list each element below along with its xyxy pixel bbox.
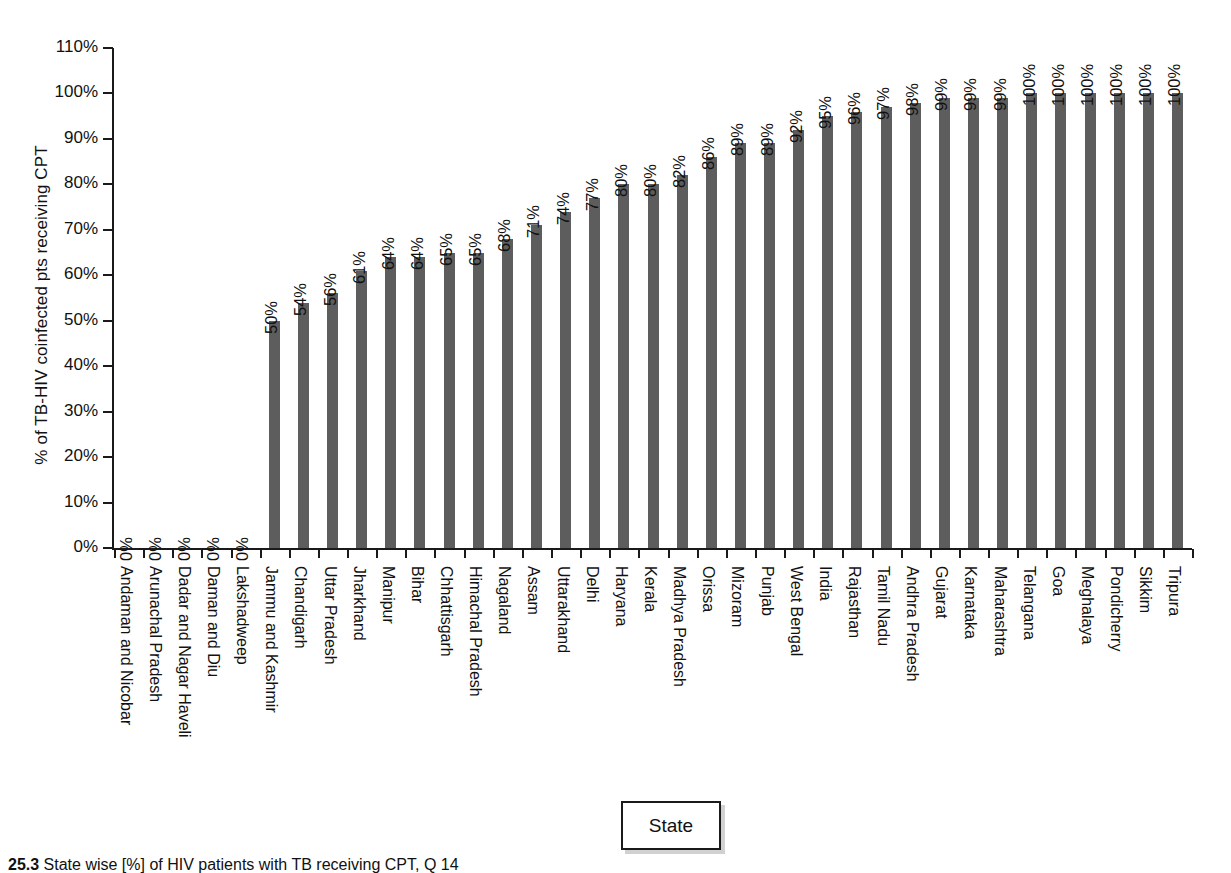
bar-value-label: 65% <box>437 233 456 266</box>
bar[interactable] <box>822 116 833 548</box>
x-tick-mark <box>347 549 349 558</box>
bar[interactable] <box>414 257 425 548</box>
caption-text: State wise [%] of HIV patients with TB r… <box>44 856 459 873</box>
bar[interactable] <box>851 112 862 548</box>
x-tick-mark <box>376 549 378 558</box>
x-tick-mark <box>289 549 291 558</box>
x-tick-mark <box>1046 549 1048 558</box>
bar[interactable] <box>706 157 717 548</box>
bar-value-label: 0% <box>175 537 194 561</box>
x-tick-mark <box>872 549 874 558</box>
x-category-label: Jammu and Kashmir <box>262 566 280 713</box>
bar-value-label: 64% <box>408 237 427 270</box>
bar-value-label: 98% <box>903 83 922 116</box>
x-category-label: Orissa <box>699 566 717 612</box>
x-tick-mark <box>1163 549 1165 558</box>
bar[interactable] <box>1114 93 1125 548</box>
x-category-label: Chhattisgarh <box>437 566 455 657</box>
bar-value-label: 95% <box>816 96 835 129</box>
bar[interactable] <box>1055 93 1066 548</box>
bar[interactable] <box>1172 93 1183 548</box>
bar[interactable] <box>939 98 950 548</box>
bar[interactable] <box>618 184 629 548</box>
bar[interactable] <box>269 321 280 548</box>
bar[interactable] <box>764 143 775 548</box>
bar[interactable] <box>531 225 542 548</box>
bar[interactable] <box>298 303 309 548</box>
x-category-label: Pondicherry <box>1107 566 1125 651</box>
bar-value-label: 97% <box>874 87 893 120</box>
x-tick-mark <box>842 549 844 558</box>
x-category-label: Tripura <box>1165 566 1183 616</box>
x-category-label: Daman and Diu <box>204 566 222 677</box>
x-category-label: Arunachal Pradesh <box>146 566 164 702</box>
bar[interactable] <box>968 98 979 548</box>
bar[interactable] <box>327 293 338 548</box>
bar[interactable] <box>1143 93 1154 548</box>
x-tick-mark <box>522 549 524 558</box>
bar-value-label: 80% <box>641 164 660 197</box>
figure-caption: 25.3 State wise [%] of HIV patients with… <box>8 856 459 873</box>
bar[interactable] <box>881 107 892 548</box>
x-tick-mark <box>1105 549 1107 558</box>
x-category-label: Andhra Pradesh <box>903 566 921 682</box>
legend-state-box[interactable]: State <box>621 801 721 850</box>
bar[interactable] <box>444 253 455 548</box>
bar-value-label: 61% <box>350 251 369 284</box>
caption-number: 25.3 <box>8 856 39 873</box>
bar-value-label: 99% <box>932 78 951 111</box>
x-category-label: Goa <box>1049 566 1067 596</box>
bar-value-label: 100% <box>1165 64 1184 106</box>
bars-layer: 0%0%0%0%0%50%54%56%61%64%64%65%65%68%71%… <box>0 0 1231 549</box>
bar[interactable] <box>589 198 600 548</box>
bar-value-label: 100% <box>1049 64 1068 106</box>
bar[interactable] <box>793 130 804 548</box>
x-category-label: Maharashtra <box>991 566 1009 656</box>
bar[interactable] <box>1085 93 1096 548</box>
bar[interactable] <box>677 175 688 548</box>
bar[interactable] <box>502 239 513 548</box>
x-category-label: Jharkhand <box>350 566 368 641</box>
bar-value-label: 74% <box>554 192 573 225</box>
x-category-label: Chandigarh <box>291 566 309 649</box>
bar-value-label: 100% <box>1020 64 1039 106</box>
bar[interactable] <box>385 257 396 548</box>
x-tick-mark <box>260 549 262 558</box>
bar-value-label: 80% <box>612 164 631 197</box>
x-tick-mark <box>143 549 145 558</box>
bar[interactable] <box>735 143 746 548</box>
bar-value-label: 92% <box>787 110 806 143</box>
bar-value-label: 89% <box>758 123 777 156</box>
x-tick-mark <box>930 549 932 558</box>
x-category-label: Telangana <box>1020 566 1038 640</box>
x-category-label: Manipur <box>379 566 397 624</box>
bar[interactable] <box>356 271 367 548</box>
x-tick-mark <box>1192 549 1194 558</box>
bar[interactable] <box>910 103 921 548</box>
bar-value-label: 100% <box>1107 64 1126 106</box>
x-category-label: Uttarakhand <box>554 566 572 653</box>
chart-figure: % of TB-HIV coinfected pts receiving CPT… <box>0 0 1231 873</box>
bar[interactable] <box>997 98 1008 548</box>
x-category-label: Bihar <box>408 566 426 603</box>
x-tick-mark <box>813 549 815 558</box>
x-tick-mark <box>464 549 466 558</box>
bar-value-label: 0% <box>146 537 165 561</box>
x-tick-mark <box>901 549 903 558</box>
bar[interactable] <box>560 212 571 548</box>
x-tick-mark <box>755 549 757 558</box>
x-category-label: Punjab <box>758 566 776 616</box>
bar-value-label: 71% <box>524 205 543 238</box>
x-tick-mark <box>609 549 611 558</box>
x-tick-mark <box>638 549 640 558</box>
x-category-label: Uttar Pradesh <box>321 566 339 665</box>
bar[interactable] <box>648 184 659 548</box>
bar[interactable] <box>1026 93 1037 548</box>
x-category-label: Rajasthan <box>845 566 863 638</box>
x-category-label: Dadar and Nagar Haveli <box>175 566 193 738</box>
bar-value-label: 0% <box>204 537 223 561</box>
x-category-label: Andaman and Nicobar <box>117 566 135 725</box>
bar[interactable] <box>473 253 484 548</box>
x-tick-mark <box>318 549 320 558</box>
x-category-label: Gujarat <box>932 566 950 618</box>
